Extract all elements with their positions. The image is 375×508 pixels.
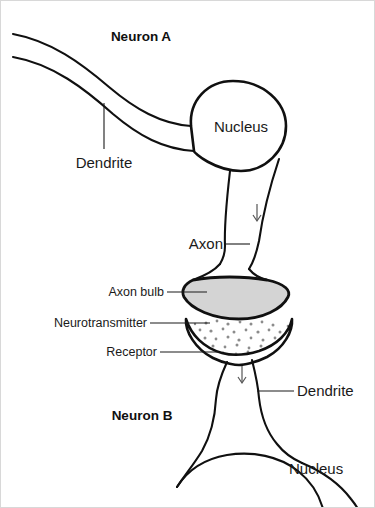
label-nucleus-bottom: Nucleus	[289, 460, 343, 477]
diagram-canvas: Neuron A Dendrite Nucleus Axon Axon bulb…	[1, 1, 375, 508]
label-neuron-b: Neuron B	[112, 408, 173, 423]
label-nucleus-top: Nucleus	[214, 118, 268, 135]
neuron-synapse-diagram: Neuron A Dendrite Nucleus Axon Axon bulb…	[0, 0, 375, 508]
down-arrow-icon-axon	[253, 204, 261, 221]
label-neurotransmitter: Neurotransmitter	[54, 316, 147, 330]
label-axon-bulb: Axon bulb	[108, 285, 164, 299]
receptor-shape	[186, 319, 292, 365]
label-receptor: Receptor	[106, 345, 157, 359]
label-neuron-a: Neuron A	[111, 29, 171, 44]
label-dendrite-top: Dendrite	[76, 154, 133, 171]
axon-shape	[220, 159, 279, 269]
axon-bulb-shape	[183, 277, 289, 319]
label-dendrite-bottom: Dendrite	[297, 382, 354, 399]
label-axon: Axon	[189, 235, 223, 252]
down-arrow-icon-dendrite	[238, 366, 246, 383]
